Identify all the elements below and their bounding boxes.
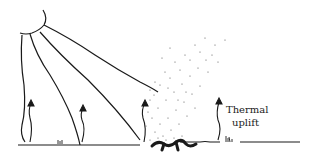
thermal-label-line2: uplift (232, 117, 259, 129)
wind-flow-curves (20, 10, 158, 145)
thermal-label-line1: Thermal (226, 104, 268, 116)
dust-particles (145, 37, 225, 140)
thermal-uplift-illustration (0, 0, 314, 160)
